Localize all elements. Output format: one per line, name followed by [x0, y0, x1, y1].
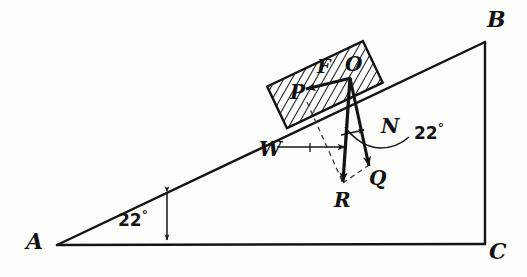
- vector-label-F: F: [317, 57, 331, 76]
- vector-label-Q: Q: [369, 168, 386, 188]
- vertex-label-A: A: [26, 230, 43, 252]
- angle-force-degree-icon: °: [438, 121, 444, 135]
- angle-force-value: 22: [414, 123, 438, 143]
- angle-slope-degree-icon: °: [142, 208, 148, 222]
- angle-label-slope: 22°: [118, 209, 148, 229]
- vector-label-W: W: [259, 139, 281, 159]
- angle-arc-force: [345, 127, 409, 148]
- angle-label-force: 22°: [414, 122, 444, 142]
- vector-label-P: P: [290, 82, 305, 102]
- figure-canvas: A B C O F P N Q R W 22° 22°: [0, 0, 527, 277]
- vertex-label-O: O: [345, 54, 362, 74]
- base-line-AC: [57, 244, 485, 245]
- dashed-line-incline-to-R: [307, 102, 343, 183]
- vector-label-R: R: [334, 190, 351, 210]
- vertex-label-C: C: [489, 240, 507, 262]
- vertex-label-B: B: [487, 8, 506, 30]
- vector-label-N: N: [381, 116, 399, 136]
- angle-slope-value: 22: [118, 210, 142, 230]
